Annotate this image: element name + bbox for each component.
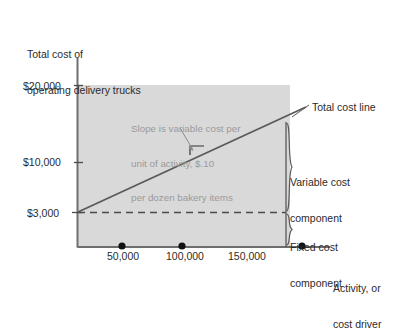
x-axis-marker-100000 xyxy=(178,242,185,249)
fixed-cost-label-line-1: Fixed cost xyxy=(290,241,342,253)
x-tick-label-150000: 150,000 xyxy=(228,250,266,262)
y-tick-label-3000: $3,000 xyxy=(27,207,59,219)
fixed-cost-component-label: Fixed cost component xyxy=(290,217,342,313)
variable-cost-label-line-1: Variable cost xyxy=(290,176,350,188)
slope-annotation: Slope is variable cost per unit of activ… xyxy=(131,100,240,227)
slope-annotation-line-3: per dozen bakery items xyxy=(131,192,240,204)
slope-annotation-line-1: Slope is variable cost per xyxy=(131,123,240,135)
x-tick-label-50000: 50,000 xyxy=(107,250,139,262)
total-cost-line-label: Total cost line xyxy=(312,101,376,113)
x-axis-title: Activity, or cost driver (dozens of bake… xyxy=(333,258,406,333)
x-tick-label-100000: 100,000 xyxy=(166,250,204,262)
y-axis-title: Total cost of operating delivery trucks xyxy=(27,24,141,120)
y-tick-label-20000: $20,000 xyxy=(23,80,61,92)
slope-annotation-line-2: unit of activity, $.10 xyxy=(131,158,240,170)
fixed-cost-label-line-2: component xyxy=(290,277,342,289)
x-axis-title-line-2: cost driver xyxy=(333,318,406,330)
x-axis-title-line-1: Activity, or xyxy=(333,282,406,294)
y-tick-label-10000: $10,000 xyxy=(23,156,61,168)
total-cost-line-leader xyxy=(292,105,309,117)
cost-behavior-chart: Total cost of operating delivery trucks … xyxy=(0,0,407,333)
x-axis-marker-50000 xyxy=(118,242,125,249)
y-axis-title-line-1: Total cost of xyxy=(27,48,141,60)
